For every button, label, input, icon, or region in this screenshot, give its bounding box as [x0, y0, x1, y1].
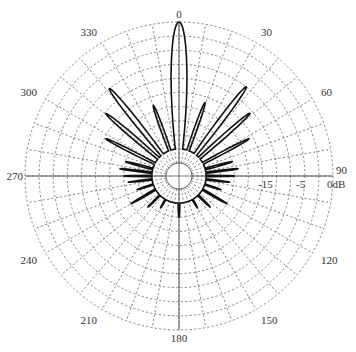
grid-radial-line — [61, 184, 169, 275]
polar-radiation-pattern-chart: 0306090120150180210240270300330 0dB-5-15 — [0, 0, 356, 352]
angle-label-270: 270 — [7, 170, 24, 182]
angle-label-180: 180 — [171, 332, 188, 344]
angle-label-300: 300 — [20, 86, 37, 98]
angle-label-90: 90 — [336, 164, 348, 176]
grid-radial-line — [187, 186, 278, 294]
inner-circle — [166, 163, 192, 189]
grid-radial-line — [126, 188, 174, 320]
angle-label-60: 60 — [321, 86, 333, 98]
grid-radial-line — [186, 43, 257, 165]
angle-label-30: 30 — [261, 26, 273, 38]
radial-db-labels: 0dB-5-15 — [258, 178, 345, 190]
angle-label-120: 120 — [321, 254, 338, 266]
grid-radial-line — [27, 149, 166, 173]
grid-radial-line — [27, 178, 166, 202]
angle-label-330: 330 — [81, 26, 98, 38]
grid-radial-line — [102, 43, 173, 165]
angle-label-240: 240 — [20, 254, 37, 266]
angle-label-150: 150 — [261, 314, 278, 326]
radial-label: 0dB — [327, 178, 345, 190]
radial-label: -15 — [258, 178, 273, 190]
angle-label-210: 210 — [81, 314, 98, 326]
radial-label: -5 — [296, 178, 306, 190]
grid-radial-line — [189, 184, 297, 275]
angle-label-0: 0 — [176, 8, 182, 20]
grid-radial-line — [80, 186, 171, 294]
